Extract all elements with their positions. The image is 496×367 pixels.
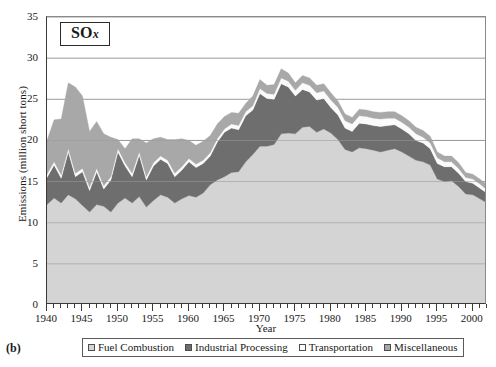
chart-title-text: SO [71,24,93,41]
x-tick-major [472,304,473,311]
x-tick-minor [486,304,487,308]
legend-item[interactable]: Transportation [299,341,373,353]
x-tick-minor [89,304,90,308]
x-tick-minor [380,304,381,308]
x-tick-minor [458,304,459,308]
x-tick-minor [103,304,104,308]
x-tick-minor [358,304,359,308]
x-tick-minor [252,304,253,308]
y-tick-label: 35 [12,11,38,22]
x-tick-minor [451,304,452,308]
x-tick-minor [337,304,338,308]
x-tick-minor [394,304,395,308]
x-tick-minor [273,304,274,308]
y-tick-label: 20 [12,134,38,145]
x-tick-minor [167,304,168,308]
x-tick-minor [231,304,232,308]
x-tick-major [223,304,224,311]
chart-plot-area [46,16,486,304]
x-tick-minor [387,304,388,308]
chart-title-subscript: x [93,27,99,41]
x-tick-minor [429,304,430,308]
legend-item[interactable]: Miscellaneous [384,341,458,353]
y-tick-label: 30 [12,52,38,63]
x-tick-major [365,304,366,311]
x-tick-minor [74,304,75,308]
x-tick-minor [174,304,175,308]
legend-label: Miscellaneous [394,341,458,353]
panel-label: (b) [6,341,21,356]
x-tick-minor [287,304,288,308]
legend-swatch-icon [185,344,192,351]
x-tick-minor [124,304,125,308]
legend-swatch-icon [88,344,95,351]
legend-swatch-icon [299,344,306,351]
x-tick-minor [216,304,217,308]
x-tick-minor [443,304,444,308]
x-tick-minor [209,304,210,308]
x-tick-minor [181,304,182,308]
legend-swatch-icon [384,344,391,351]
x-tick-minor [110,304,111,308]
x-tick-minor [160,304,161,308]
x-tick-minor [323,304,324,308]
x-tick-minor [351,304,352,308]
x-tick-minor [301,304,302,308]
x-tick-minor [479,304,480,308]
x-tick-major [46,304,47,311]
x-tick-minor [60,304,61,308]
x-tick-minor [372,304,373,308]
x-tick-minor [238,304,239,308]
x-tick-major [436,304,437,311]
x-tick-minor [408,304,409,308]
legend-item[interactable]: Industrial Processing [185,341,288,353]
x-tick-minor [67,304,68,308]
x-tick-minor [422,304,423,308]
x-tick-major [188,304,189,311]
x-tick-minor [316,304,317,308]
y-tick-label: 10 [12,216,38,227]
y-tick-label: 5 [12,257,38,268]
x-tick-minor [309,304,310,308]
x-tick-minor [344,304,345,308]
x-tick-minor [465,304,466,308]
y-tick-label: 25 [12,93,38,104]
legend-label: Industrial Processing [195,341,288,353]
x-tick-minor [415,304,416,308]
x-tick-minor [195,304,196,308]
x-tick-minor [266,304,267,308]
x-axis: 1940194519501955196019651970197519801985… [46,304,486,316]
x-tick-major [259,304,260,311]
x-tick-minor [202,304,203,308]
x-tick-minor [53,304,54,308]
x-tick-minor [96,304,97,308]
y-tick-label: 0 [12,299,38,310]
y-tick-label: 15 [12,175,38,186]
x-tick-major [294,304,295,311]
x-axis-title: Year [46,322,486,334]
x-tick-minor [145,304,146,308]
x-tick-major [117,304,118,311]
x-tick-major [152,304,153,311]
stacked-area-chart [47,17,486,304]
x-tick-major [330,304,331,311]
legend-label: Transportation [309,341,373,353]
x-tick-major [401,304,402,311]
x-tick-minor [131,304,132,308]
chart-legend: Fuel CombustionIndustrial ProcessingTran… [82,338,464,357]
x-tick-minor [280,304,281,308]
legend-label: Fuel Combustion [98,341,174,353]
legend-item[interactable]: Fuel Combustion [88,341,174,353]
x-tick-minor [245,304,246,308]
x-tick-minor [138,304,139,308]
chart-title-box: SOx [60,22,110,46]
figure-panel: Emissions (million short tons) 051015202… [0,0,496,367]
x-tick-major [81,304,82,311]
